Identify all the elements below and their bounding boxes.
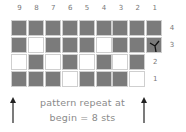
chart-cell (146, 20, 162, 36)
row-number: 2 (150, 58, 160, 66)
chart-cell (28, 37, 44, 53)
row-number: 1 (150, 75, 160, 83)
column-number: 2 (129, 4, 146, 12)
arrow-up-icon-right (140, 97, 148, 123)
chart-cell (96, 20, 112, 36)
chart-cell (62, 37, 78, 53)
column-number: 6 (62, 4, 79, 12)
chart-cell (112, 20, 128, 36)
chart-cell (45, 20, 61, 36)
chart-cell (129, 20, 145, 36)
column-number: 8 (28, 4, 45, 12)
column-number: 7 (45, 4, 62, 12)
chart-cell (11, 20, 27, 36)
chart-cell (96, 54, 112, 70)
chart-cell (129, 71, 145, 87)
arrow-up-icon-left (9, 97, 17, 123)
column-number: 5 (79, 4, 96, 12)
chart-cell (45, 71, 61, 87)
chart-cell (79, 37, 95, 53)
column-number: 1 (146, 4, 163, 12)
chart-cell (96, 37, 112, 53)
column-number: 9 (11, 4, 28, 12)
chart-cell (112, 71, 128, 87)
row-number: 4 (167, 24, 177, 32)
chart-cell (129, 37, 145, 53)
column-number: 3 (112, 4, 129, 12)
caption-line-2: begin = 8 sts (30, 112, 135, 123)
chart-cell (45, 37, 61, 53)
chart-cell (28, 20, 44, 36)
chart-cell (112, 54, 128, 70)
caption-line-1: pattern repeat at (30, 97, 135, 108)
chart-cell (28, 54, 44, 70)
chart-cell (45, 54, 61, 70)
row-number: 3 (167, 41, 177, 49)
chart-cell (146, 37, 162, 53)
chart-cell (129, 54, 145, 70)
column-number: 4 (96, 4, 113, 12)
chart-cell (79, 54, 95, 70)
chart-cell (11, 54, 27, 70)
chart-cell (79, 20, 95, 36)
chart-cell (112, 37, 128, 53)
chart-cell (62, 20, 78, 36)
chart-cell (11, 37, 27, 53)
chart-cell (28, 71, 44, 87)
increase-symbol-icon (149, 40, 161, 52)
chart-cell (62, 71, 78, 87)
chart-cell (96, 71, 112, 87)
chart-cell (79, 71, 95, 87)
chart-cell (11, 71, 27, 87)
chart-cell (62, 54, 78, 70)
